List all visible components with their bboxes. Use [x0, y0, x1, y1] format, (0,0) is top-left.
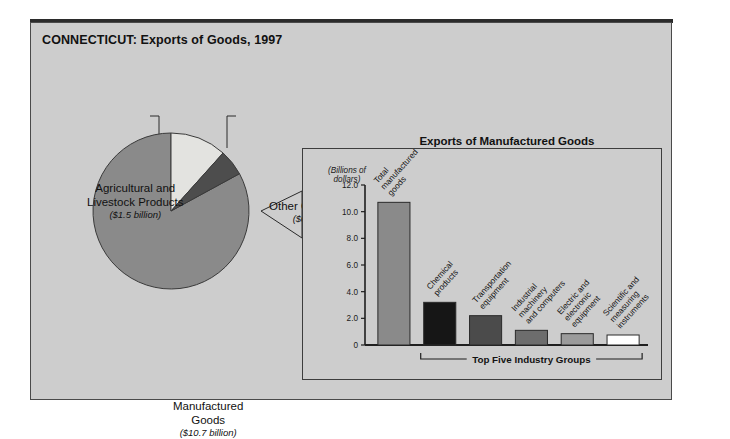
inset-chart-box: (Billions ofdollars)02.04.06.08.010.012.… [302, 148, 662, 380]
pie-label-agricultural-livestock: Agricultural and Livestock Products ($1.… [87, 181, 184, 221]
figure-title: CONNECTICUT: Exports of Goods, 1997 [42, 33, 282, 47]
bar-group: Scientific andmeasuringinstruments [601, 274, 656, 345]
pie-label-agricultural-line1: Agricultural and [87, 181, 184, 195]
pie-label-agricultural-line2: Livestock Products [87, 195, 184, 209]
bar-label-6: Scientific andmeasuringinstruments [601, 274, 656, 330]
pie-chart-panel: Agricultural and Livestock Products ($1.… [61, 123, 311, 323]
bar-5 [561, 334, 593, 345]
figure-frame: CONNECTICUT: Exports of Goods, 1997 Agri… [30, 22, 672, 400]
bar-group: Totalmanufacturedgoods [371, 149, 427, 345]
bar-1 [378, 202, 410, 345]
top-five-bracket: Top Five Industry Groups [421, 353, 642, 365]
svg-text:4.0: 4.0 [347, 288, 359, 297]
bar-label-1: Totalmanufacturedgoods [371, 149, 427, 198]
svg-text:10.0: 10.0 [342, 208, 358, 217]
bar-2 [424, 302, 456, 345]
pie-label-manufactured-line1: Manufactured [173, 399, 243, 413]
bar-chart: (Billions ofdollars)02.04.06.08.010.012.… [303, 149, 663, 381]
svg-text:12.0: 12.0 [342, 181, 358, 190]
svg-text:2.0: 2.0 [347, 314, 359, 323]
bar-group: Chemicalproducts [424, 259, 462, 345]
bar-label-2: Chemicalproducts [424, 259, 462, 298]
pie-label-manufactured-amount: ($10.7 billion) [173, 427, 243, 439]
bar-4 [515, 330, 547, 345]
y-axis-ticks: 02.04.06.08.010.012.0 [342, 181, 365, 350]
svg-text:(Billions of: (Billions of [328, 166, 366, 175]
svg-text:0: 0 [353, 341, 358, 350]
top-five-bracket-label: Top Five Industry Groups [472, 354, 591, 365]
svg-text:8.0: 8.0 [347, 234, 359, 243]
bar-label-4: Industrialmachineryand computers [509, 266, 567, 326]
inset-chart-title: Exports of Manufactured Goods [332, 135, 682, 147]
pie-label-agricultural-amount: ($1.5 billion) [87, 209, 184, 221]
bar-3 [470, 316, 502, 345]
bar-6 [607, 335, 639, 345]
pie-label-manufactured-goods: Manufactured Goods ($10.7 billion) [173, 399, 243, 439]
pie-label-manufactured-line2: Goods [173, 413, 243, 427]
svg-text:6.0: 6.0 [347, 261, 359, 270]
